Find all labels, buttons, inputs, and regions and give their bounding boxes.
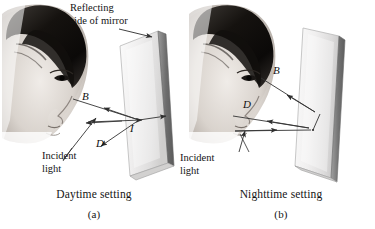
head-photo-b <box>187 0 275 166</box>
ray-label-I-a: I <box>130 122 134 134</box>
reflecting-side-line1: Reflecting <box>70 2 128 15</box>
incident-light-label-a: Incident light <box>42 150 76 175</box>
panel-nighttime: Incident light B D Nighttime setting (b) <box>187 0 375 229</box>
ray-label-D-b: D <box>243 98 251 110</box>
reflecting-side-line2: side of mirror <box>70 15 128 28</box>
caption-nighttime: Nighttime setting <box>187 188 375 200</box>
incident-light-line1: Incident <box>180 152 214 165</box>
incident-light-line2: light <box>42 163 76 176</box>
ray-label-B-a: B <box>82 90 89 102</box>
mirror-b <box>295 28 345 182</box>
mirror-reflection-figure: Reflecting side of mirror Incident light… <box>0 0 375 229</box>
ray-label-D-a: D <box>96 137 104 149</box>
incident-light-label-b: Incident light <box>180 152 214 177</box>
incident-light-line2: light <box>180 165 214 178</box>
caption-daytime: Daytime setting <box>0 188 188 200</box>
panel-daytime: Reflecting side of mirror Incident light… <box>0 0 188 229</box>
reflecting-side-label-a: Reflecting side of mirror <box>70 2 128 27</box>
caption-letter-a: (a) <box>0 208 188 220</box>
incident-light-line1: Incident <box>42 150 76 163</box>
ray-label-B-b: B <box>273 64 280 76</box>
caption-letter-b: (b) <box>187 208 375 220</box>
